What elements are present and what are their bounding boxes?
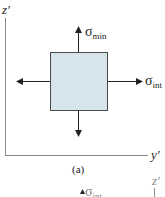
arrow-right-shaft: [108, 81, 138, 82]
z-axis-line-b: [154, 188, 155, 197]
figure-caption: (a): [72, 164, 84, 175]
sigma-label-b: σint: [85, 185, 102, 197]
arrow-up-shaft: [78, 30, 79, 52]
arrow-left-shaft: [20, 81, 50, 82]
arrow-left-icon: [16, 78, 23, 85]
arrow-down-icon: [75, 130, 82, 137]
arrow-down-shaft: [78, 111, 79, 132]
arrow-right-icon: [136, 78, 143, 85]
y-prime-axis-label: y′: [151, 148, 160, 161]
z-axis-line: [5, 18, 6, 156]
z-prime-axis-label: z′: [2, 3, 10, 16]
z-prime-axis-label-b: z′: [152, 174, 160, 187]
stress-element: [50, 52, 108, 111]
sigma-int-label: σint: [145, 74, 162, 90]
sigma-min-label: σmin: [85, 25, 107, 41]
y-axis-line: [5, 155, 148, 156]
arrow-up-icon: [75, 26, 82, 33]
